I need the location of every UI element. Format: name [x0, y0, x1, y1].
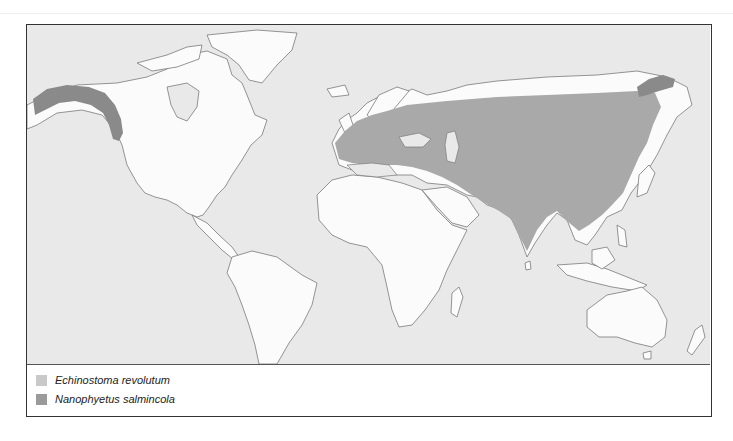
- legend-swatch-light-gray: [36, 375, 47, 386]
- north-america: [27, 51, 267, 217]
- australia: [587, 287, 667, 347]
- central-america: [192, 215, 239, 259]
- legend-label: Nanophyetus salmincola: [55, 393, 175, 405]
- world-map-svg: [27, 25, 710, 364]
- legend-swatch-dark-gray: [36, 394, 47, 405]
- sri-lanka: [525, 261, 531, 270]
- iceland: [327, 85, 349, 97]
- figure-frame: Echinostoma revolutum Nanophyetus salmin…: [26, 24, 712, 417]
- philippines: [617, 225, 627, 247]
- legend-item-echinostoma: Echinostoma revolutum: [36, 373, 170, 387]
- south-america: [227, 251, 317, 364]
- legend-item-nanophyetus: Nanophyetus salmincola: [36, 392, 175, 406]
- legend-label: Echinostoma revolutum: [55, 374, 170, 386]
- new-zealand: [687, 325, 705, 355]
- legend: Echinostoma revolutum Nanophyetus salmin…: [27, 365, 710, 415]
- tasmania: [643, 351, 651, 359]
- madagascar: [451, 287, 463, 317]
- world-map: [27, 25, 710, 365]
- page-top-divider: [0, 13, 733, 14]
